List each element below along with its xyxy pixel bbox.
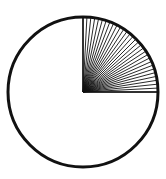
quadrant-diagram (0, 0, 166, 179)
